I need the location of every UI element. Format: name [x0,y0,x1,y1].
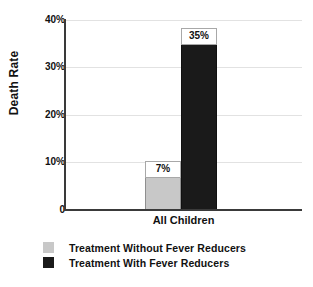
bar-chart: Death Rate 40% 30% 20% 10% 0 7% 35% All … [0,0,313,287]
legend-label-with-fever-reducers: Treatment With Fever Reducers [69,257,229,269]
plot-area: 7% 35% [65,20,302,210]
legend: Treatment Without Fever Reducers Treatme… [43,240,308,270]
x-axis-category-label: All Children [65,214,302,226]
legend-swatch-icon-without-fever-reducers [43,242,54,253]
x-axis-line [64,209,302,211]
y-axis-tick-label-40: 40% [13,15,65,25]
y-axis-tick-label-10: 10% [13,157,65,167]
y-axis-tick-label-30: 30% [13,62,65,72]
bar-with-fever-reducers [181,44,217,210]
legend-label-without-fever-reducers: Treatment Without Fever Reducers [69,242,246,254]
legend-item-without-fever-reducers: Treatment Without Fever Reducers [43,240,308,255]
legend-item-with-fever-reducers: Treatment With Fever Reducers [43,255,308,270]
y-axis-tick-label-20: 20% [13,110,65,120]
y-axis-tick-label-0: 0 [13,205,65,215]
y-axis-line [64,19,66,211]
bar-without-fever-reducers [145,177,181,210]
data-label-with-fever-reducers: 35% [181,28,217,45]
gridline-40 [65,20,302,21]
data-label-without-fever-reducers: 7% [145,161,181,178]
legend-swatch-icon-with-fever-reducers [43,257,54,268]
